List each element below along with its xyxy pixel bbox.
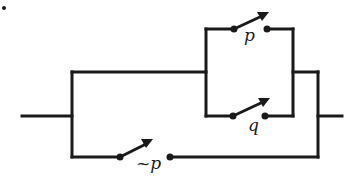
switch-p: p [206, 12, 293, 45]
switch-not-p: ~p [72, 139, 318, 173]
switch-q: q [206, 98, 293, 135]
switch-label-p: p [244, 25, 255, 45]
figure-marker-dot [2, 6, 6, 10]
switch-label-q: q [248, 115, 259, 135]
circuit-diagram: p q ~p [0, 0, 355, 180]
switch-label-not-p: ~p [136, 153, 161, 173]
